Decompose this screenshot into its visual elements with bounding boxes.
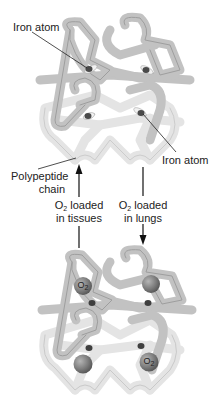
label-o2-sphere-1: O2 bbox=[78, 280, 89, 291]
label-o2-loaded-tissues: O2 loaded in tissues bbox=[55, 199, 104, 225]
o2-symbol: O bbox=[55, 199, 64, 211]
label-o2-loaded-lungs: O2 loaded in lungs bbox=[119, 199, 168, 225]
label-o2-sphere-2: O2 bbox=[144, 356, 155, 367]
top-molecule bbox=[40, 17, 190, 160]
diagram-graphics bbox=[0, 0, 218, 406]
label-polypeptide-line1: Polypeptide bbox=[11, 170, 65, 183]
hemoglobin-diagram: Iron atom Iron atom Polypeptide chain O2… bbox=[0, 0, 218, 406]
label-iron-atom-top: Iron atom bbox=[13, 21, 59, 34]
o2-symbol: O bbox=[119, 199, 128, 211]
label-polypeptide-chain: Polypeptide chain bbox=[11, 170, 65, 196]
label-iron-atom-right: Iron atom bbox=[162, 154, 208, 167]
label-polypeptide-line2: chain bbox=[11, 183, 65, 196]
bottom-molecule bbox=[42, 250, 192, 390]
